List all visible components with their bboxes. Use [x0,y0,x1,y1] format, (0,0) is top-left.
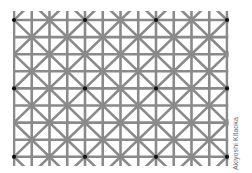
black-dot [154,155,158,159]
black-dot [225,155,229,159]
grid-lines [0,0,252,173]
author-credit: Akiyoshi Kitaoka [232,117,239,170]
black-dot [83,155,87,159]
diagonal-line [227,0,252,173]
black-dot [225,18,229,22]
black-dot [154,86,158,90]
black-dot [154,18,158,22]
diagonal-line [0,0,14,173]
black-dot [83,86,87,90]
illusion-figure [0,0,252,173]
black-dot [83,18,87,22]
diagonal-line [0,0,14,173]
black-dot [225,86,229,90]
black-dot [12,86,16,90]
diagonal-line [227,0,252,173]
black-dot [12,18,16,22]
black-dot [12,155,16,159]
